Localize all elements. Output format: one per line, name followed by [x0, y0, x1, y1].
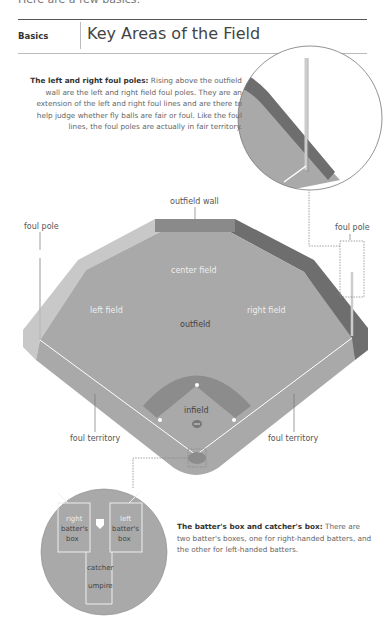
label-foul-pole-right: foul pole — [335, 223, 370, 232]
home-plate-magnifier — [41, 489, 167, 615]
label-right-box-2: batter's — [61, 525, 88, 533]
label-left-box-3: box — [118, 535, 131, 543]
label-outfield: outfield — [180, 320, 210, 329]
batters-box-heading: The batter's box and catcher's box: — [177, 522, 323, 531]
foul-pole-magnifier — [230, 46, 382, 200]
label-left-box-1: left — [120, 515, 131, 523]
label-left-box-2: batter's — [112, 525, 139, 533]
label-infield: infield — [184, 406, 209, 415]
label-umpire: umpire — [88, 582, 113, 590]
foul-poles-description: The left and right foul poles: Rising ab… — [24, 75, 242, 133]
label-foul-territory-left: foul territory — [70, 434, 120, 443]
label-right-field: right field — [247, 306, 286, 315]
label-foul-territory-right: foul territory — [268, 434, 318, 443]
label-catcher: catcher — [87, 564, 113, 572]
label-center-field: center field — [171, 266, 217, 275]
label-outfield-wall: outfield wall — [170, 197, 219, 206]
label-foul-pole-left: foul pole — [24, 222, 59, 231]
label-right-box-3: box — [66, 535, 79, 543]
foul-poles-heading: The left and right foul poles: — [30, 76, 148, 85]
label-right-box-1: right — [66, 515, 82, 523]
batters-box-description: The batter's box and catcher's box: Ther… — [177, 521, 372, 556]
label-left-field: left field — [90, 306, 123, 315]
